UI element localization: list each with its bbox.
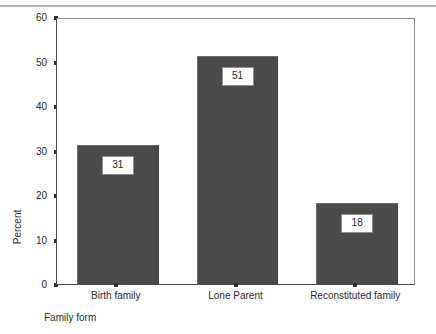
y-axis-title: Percent bbox=[13, 187, 23, 267]
bar-value-label: 18 bbox=[341, 214, 373, 233]
bar-series: 315118 bbox=[57, 19, 414, 284]
y-tick-label: 0 bbox=[7, 280, 47, 290]
x-tick-mark bbox=[114, 283, 118, 287]
y-tick-label: 60 bbox=[7, 13, 47, 23]
bar-1 bbox=[197, 56, 279, 284]
x-tick-mark bbox=[234, 283, 238, 287]
plot-area: 315118 bbox=[56, 18, 415, 285]
page-top-rule bbox=[0, 5, 436, 7]
y-tick-label: 50 bbox=[7, 58, 47, 68]
x-tick-label: Reconstituted family bbox=[275, 290, 435, 302]
x-tick-mark bbox=[353, 283, 357, 287]
y-tick-label: 30 bbox=[7, 147, 47, 157]
bar-value-label: 31 bbox=[102, 156, 134, 175]
bar-chart-figure: 0102030405060 315118 Birth familyLone Pa… bbox=[0, 0, 436, 334]
y-tick-label: 40 bbox=[7, 102, 47, 112]
x-axis-title: Family form bbox=[44, 312, 96, 324]
bar-value-label: 51 bbox=[222, 67, 254, 86]
